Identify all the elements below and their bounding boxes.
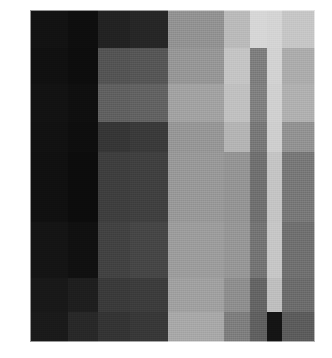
heatmap-cell (30, 312, 68, 342)
heatmap-cell (130, 122, 168, 152)
heatmap-cell (168, 222, 224, 278)
heatmap-cell (267, 84, 282, 122)
heatmap-cell (267, 122, 282, 152)
heatmap-cell (282, 312, 315, 342)
heatmap-cell (250, 152, 267, 222)
heatmap-cell (130, 278, 168, 312)
heatmap-cell (282, 48, 315, 84)
heatmap-cell (224, 84, 250, 122)
heatmap-cell (224, 10, 250, 48)
heatmap-cell (282, 10, 315, 48)
heatmap-cell (68, 152, 98, 222)
heatmap-cell (30, 48, 68, 84)
heatmap-figure (0, 0, 332, 358)
heatmap-cell (267, 278, 282, 312)
heatmap-cell (282, 278, 315, 312)
heatmap-cell (30, 278, 68, 312)
heatmap-cell (250, 122, 267, 152)
heatmap-cell (98, 152, 130, 222)
heatmap-cell (224, 48, 250, 84)
heatmap-cell (282, 222, 315, 278)
heatmap-cell (224, 222, 250, 278)
heatmap-cell (130, 48, 168, 84)
heatmap-cell (68, 222, 98, 278)
heatmap-cell (30, 10, 68, 48)
heatmap-cell (168, 84, 224, 122)
heatmap-cell (224, 122, 250, 152)
heatmap-cell (282, 152, 315, 222)
heatmap-cell (98, 84, 130, 122)
heatmap-cell (130, 152, 168, 222)
heatmap-cell (168, 152, 224, 222)
heatmap-cell (98, 312, 130, 342)
heatmap-cell (267, 48, 282, 84)
heatmap-cell (130, 222, 168, 278)
heatmap-cell (68, 84, 98, 122)
heatmap-plot-area (30, 10, 315, 342)
heatmap-cell (68, 122, 98, 152)
heatmap-cell (130, 312, 168, 342)
heatmap-cell (224, 278, 250, 312)
heatmap-cell (98, 10, 130, 48)
heatmap-grid (30, 10, 315, 342)
heatmap-cell (130, 84, 168, 122)
heatmap-cell (68, 10, 98, 48)
heatmap-cell (168, 278, 224, 312)
heatmap-cell (30, 84, 68, 122)
heatmap-cell (168, 122, 224, 152)
heatmap-cell (250, 222, 267, 278)
heatmap-cell (224, 312, 250, 342)
heatmap-cell (282, 84, 315, 122)
heatmap-cell (267, 222, 282, 278)
heatmap-cell (250, 278, 267, 312)
heatmap-cell (98, 222, 130, 278)
heatmap-cell (98, 278, 130, 312)
heatmap-cell (168, 48, 224, 84)
heatmap-cell (250, 312, 267, 342)
heatmap-cell (98, 122, 130, 152)
heatmap-cell (68, 48, 98, 84)
heatmap-cell (130, 10, 168, 48)
heatmap-cell (68, 278, 98, 312)
heatmap-cell (282, 122, 315, 152)
heatmap-cell (224, 152, 250, 222)
heatmap-cell (267, 312, 282, 342)
heatmap-cell (98, 48, 130, 84)
heatmap-cell (267, 10, 282, 48)
heatmap-cell (168, 10, 224, 48)
heatmap-cell (250, 84, 267, 122)
heatmap-cell (68, 312, 98, 342)
heatmap-cell (250, 10, 267, 48)
heatmap-cell (30, 222, 68, 278)
heatmap-cell (30, 152, 68, 222)
heatmap-cell (267, 152, 282, 222)
heatmap-cell (250, 48, 267, 84)
heatmap-cell (30, 122, 68, 152)
heatmap-cell (168, 312, 224, 342)
